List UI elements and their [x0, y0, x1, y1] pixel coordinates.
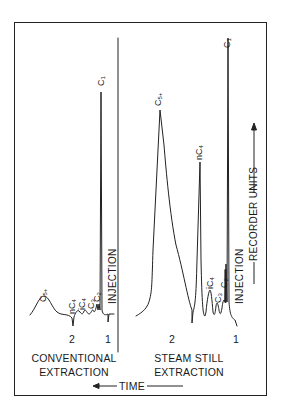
recorder-units-label: RECORDER UNITS [248, 167, 259, 261]
time-axis-label: TIME [119, 380, 145, 392]
time-axis-arrow [0, 0, 283, 415]
